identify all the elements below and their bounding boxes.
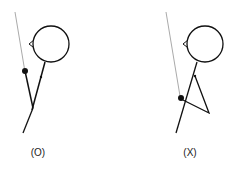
caption-incorrect: (X): [170, 147, 210, 158]
elbow-dot: [40, 76, 42, 78]
caption-correct: (O): [18, 147, 58, 158]
head: [187, 26, 223, 62]
arm: [25, 71, 33, 108]
arm: [181, 76, 209, 113]
figure-correct-posture: (O): [0, 0, 116, 172]
elbow-dot: [194, 75, 196, 77]
head: [33, 26, 69, 62]
figure-incorrect-posture: (X): [116, 0, 233, 172]
torso: [32, 62, 45, 110]
leg: [23, 108, 33, 133]
pole: [166, 12, 180, 96]
pole: [15, 12, 25, 72]
